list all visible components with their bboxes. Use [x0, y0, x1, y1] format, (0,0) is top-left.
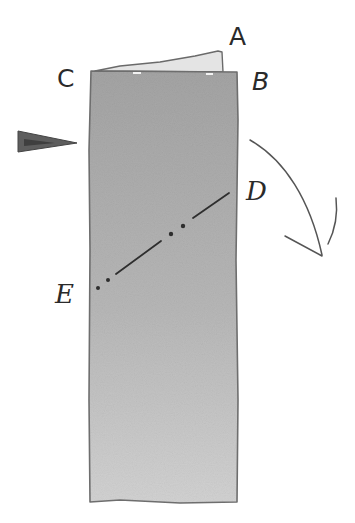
- label-e: E: [55, 281, 74, 307]
- paper-strip: [89, 71, 238, 503]
- pointer-marker-icon: [18, 131, 77, 152]
- origami-diagram: [0, 0, 355, 523]
- paper-flap: [95, 51, 223, 72]
- label-b: B: [252, 69, 269, 94]
- label-d: D: [246, 178, 267, 204]
- label-c: C: [57, 66, 74, 91]
- label-a: A: [229, 24, 246, 49]
